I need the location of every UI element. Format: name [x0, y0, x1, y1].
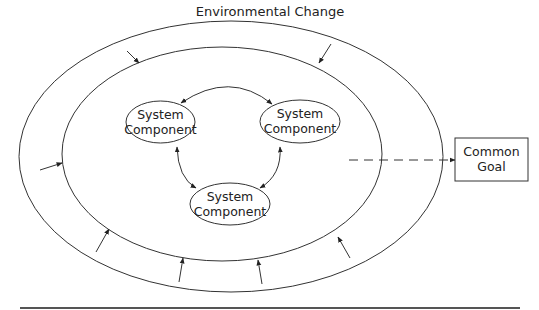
goal-label: Common Goal	[455, 144, 528, 174]
env-arrow-bottom-4	[338, 237, 350, 258]
component-label-line1: System	[255, 106, 345, 121]
component-label-line1: System	[116, 107, 206, 122]
arrow-left-right	[181, 87, 272, 104]
env-arrow-left	[40, 163, 62, 170]
env-arrow-bottom-3	[258, 260, 262, 284]
component-label-line2: Component	[255, 121, 345, 136]
environment-outer-ellipse	[19, 21, 443, 292]
component-label-bottom: System Component	[185, 189, 275, 219]
component-label-right: System Component	[255, 106, 345, 136]
env-arrow-bottom-2	[179, 258, 183, 282]
environment-label: Environmental Change	[150, 4, 390, 19]
arrow-right-bottom	[260, 147, 280, 188]
goal-label-line1: Common	[455, 144, 528, 159]
system-boundary-ellipse	[62, 47, 382, 261]
component-label-line1: System	[185, 189, 275, 204]
component-label-line2: Component	[116, 122, 206, 137]
goal-label-line2: Goal	[455, 159, 528, 174]
component-label-left: System Component	[116, 107, 206, 137]
env-arrow-bottom-1	[96, 229, 109, 252]
arrow-left-bottom	[177, 147, 196, 188]
env-arrow-top-left	[127, 51, 139, 63]
env-arrow-top-right	[319, 44, 331, 63]
component-label-line2: Component	[185, 204, 275, 219]
